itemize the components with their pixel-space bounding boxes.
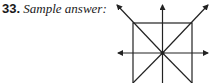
line-diagram [0, 0, 218, 83]
diagonal-line-lower-left [133, 53, 163, 83]
diagonal-line-upper-left [117, 5, 163, 53]
center-point [161, 51, 165, 55]
diagonal-line-upper-right [163, 5, 209, 53]
diagonal-line-lower-right [163, 53, 193, 83]
